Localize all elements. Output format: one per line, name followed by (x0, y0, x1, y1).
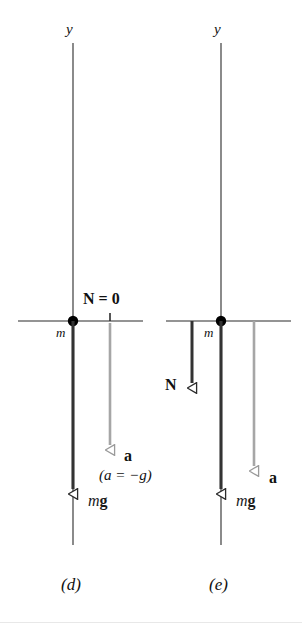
panel-e-weight-label-m: m (236, 492, 248, 509)
panel-d-caption: (d) (61, 576, 81, 593)
panel-d-weight-label-g: g (100, 492, 108, 509)
panel-e-acceleration-label: a (269, 470, 277, 486)
panel-d-acceleration-note: (a = −g) (99, 468, 152, 483)
panel-d-normal-force-label: N = 0 (83, 291, 120, 307)
panel-e-y-axis-label: y (214, 22, 221, 37)
panel-e-weight-label-g: g (248, 492, 256, 509)
panel-d-mass-label: m (56, 326, 65, 339)
panel-e-normal-force-label: N (165, 377, 177, 393)
free-body-diagram-canvas (0, 0, 302, 636)
panel-d-y-axis-label: y (66, 22, 73, 37)
panel-e-caption: (e) (209, 576, 228, 593)
page-bottom-rule (0, 622, 302, 623)
panel-e-weight-label: mg (236, 493, 256, 509)
panel-d-weight-label-m: m (88, 492, 100, 509)
figure-root: y m N = 0 a (a = −g) mg (d) y m N a mg (… (0, 0, 302, 636)
panel-e-mass-label: m (204, 326, 213, 339)
panel-d-weight-label: mg (88, 493, 108, 509)
panel-d-acceleration-label: a (124, 448, 132, 464)
